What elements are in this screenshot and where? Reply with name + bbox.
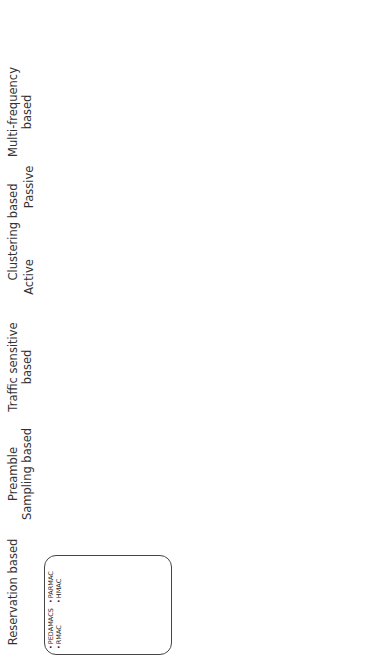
box-reservation	[44, 555, 172, 655]
header-preamble: Preamble Sampling based	[6, 419, 34, 529]
header-traffic: Traffic sensitive based	[6, 312, 34, 422]
items-reservation-2: PARMACHMAC	[48, 571, 63, 603]
items-reservation-1: PEDAMACSRMAC	[48, 608, 63, 649]
header-clustering: Clustering based	[6, 147, 20, 317]
header-multifreq: Multi-frequency based	[6, 62, 34, 162]
header-reservation: Reservation based	[6, 527, 20, 657]
header-active: Active	[22, 232, 36, 322]
mac-taxonomy-diagram: Reservation based Preamble Sampling base…	[0, 0, 380, 667]
